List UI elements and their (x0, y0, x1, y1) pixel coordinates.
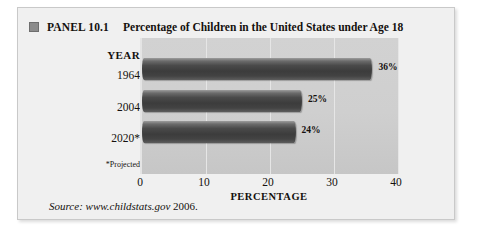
x-axis-tick-0: 0 (137, 176, 143, 188)
y-axis-tick-1964: 1964 (117, 69, 140, 81)
panel-header: PANEL 10.1 Percentage of Children in the… (29, 17, 448, 37)
bar-value-label: 36% (378, 62, 397, 72)
source-note: Source: www.childstats.gov 2006. (49, 200, 198, 212)
source-year: 2006. (173, 200, 198, 212)
x-axis-tick-30: 30 (326, 176, 338, 188)
y-axis-tick-2004: 2004 (117, 101, 140, 113)
filled-square-icon (29, 22, 39, 32)
x-axis-tick-20: 20 (262, 176, 274, 188)
y-axis-title: YEAR (107, 49, 140, 61)
projected-footnote: *Projected (106, 160, 140, 169)
page-title: Percentage of Children in the United Sta… (123, 21, 403, 33)
plot-area: 36%25%24% (140, 38, 398, 174)
panel-number: PANEL 10.1 (47, 21, 109, 33)
x-axis-tick-10: 10 (198, 176, 210, 188)
bar-row: 25% (142, 90, 398, 112)
x-axis-tick-40: 40 (390, 176, 402, 188)
bar-1964 (142, 58, 372, 80)
bar-row: 36% (142, 58, 398, 80)
bar-2004 (142, 90, 302, 112)
bar-row: 24% (142, 121, 398, 143)
bar-value-label: 24% (302, 125, 321, 135)
x-axis-labels: 010203040 (140, 176, 398, 192)
bar-2020 (142, 121, 296, 143)
bar-value-label: 25% (308, 94, 327, 104)
gridline (398, 38, 399, 174)
y-axis-labels: YEAR 1964 2004 2020* *Projected (76, 38, 140, 174)
source-label: Source: www.childstats.gov (49, 200, 170, 212)
bar-chart: YEAR 1964 2004 2020* *Projected 36%25%24… (18, 38, 456, 188)
y-axis-tick-2020: 2020* (111, 132, 140, 144)
panel-frame: PANEL 10.1 Percentage of Children in the… (17, 7, 455, 220)
